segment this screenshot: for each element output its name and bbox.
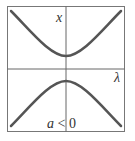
caption-variable: a [47,116,54,131]
bifurcation-diagram: x λ a < 0 [0,0,135,141]
x-axis-label: λ [113,70,120,85]
y-axis-label: x [55,10,63,25]
caption-condition: < 0 [54,116,76,131]
caption: a < 0 [47,116,76,131]
